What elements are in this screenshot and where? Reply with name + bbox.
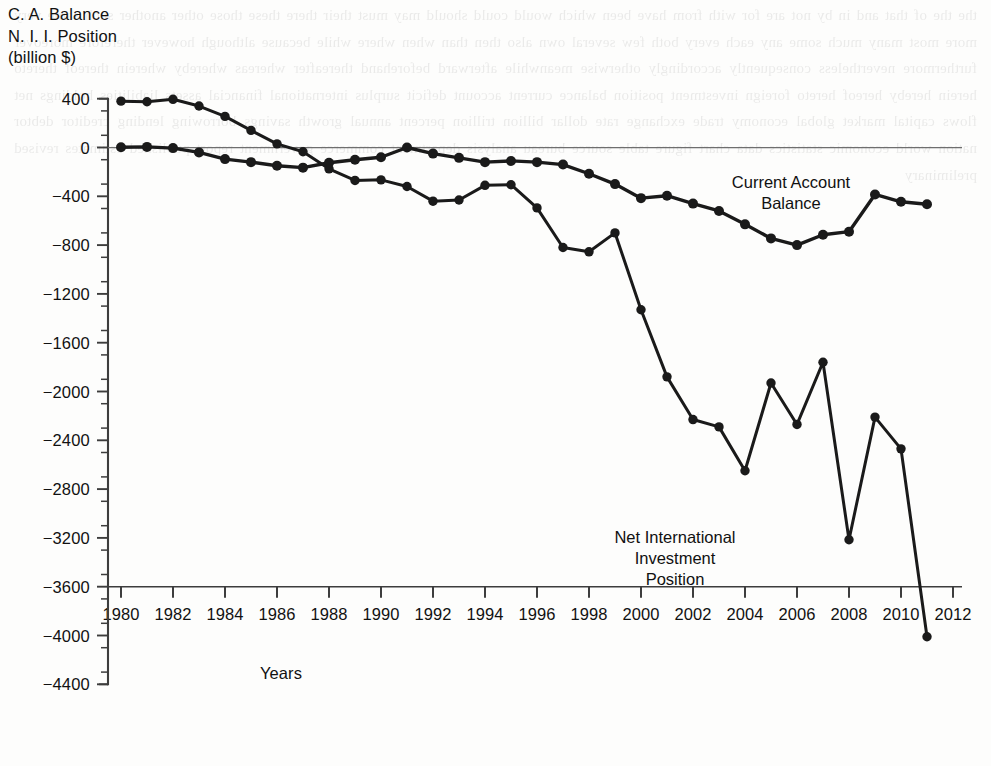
data-point: [766, 378, 775, 387]
data-point: [402, 182, 411, 191]
data-point: [246, 157, 256, 167]
data-point: [454, 195, 463, 204]
data-point: [558, 243, 567, 252]
data-point: [688, 415, 697, 424]
data-point: [298, 163, 308, 173]
data-point: [350, 176, 359, 185]
data-point: [532, 203, 541, 212]
data-point: [844, 227, 854, 237]
data-point: [194, 101, 203, 110]
data-point: [246, 126, 255, 135]
data-point: [896, 444, 905, 453]
data-point: [792, 420, 801, 429]
chart-plot-area: [0, 0, 991, 766]
data-point: [740, 219, 750, 229]
data-point: [454, 153, 464, 163]
data-point: [558, 160, 568, 170]
data-point: [480, 181, 489, 190]
data-point: [688, 199, 698, 209]
data-point: [818, 230, 828, 240]
data-point: [922, 199, 932, 209]
data-point: [766, 233, 776, 243]
data-point: [142, 142, 152, 152]
data-point: [740, 466, 749, 475]
data-point: [584, 169, 594, 179]
data-point: [506, 180, 515, 189]
data-point: [610, 228, 619, 237]
data-point: [324, 164, 333, 173]
data-point: [662, 372, 671, 381]
data-point: [584, 247, 593, 256]
data-point: [116, 142, 126, 152]
chart-figure: the the of that and in by not are for wi…: [0, 0, 991, 766]
data-point: [506, 156, 516, 166]
data-point: [376, 175, 385, 184]
data-point: [142, 97, 151, 106]
data-point: [168, 143, 178, 153]
data-point: [636, 305, 645, 314]
data-point: [714, 206, 724, 216]
data-point: [792, 240, 802, 250]
data-point: [272, 161, 282, 171]
data-point: [870, 412, 879, 421]
data-point: [922, 632, 931, 641]
data-point: [532, 157, 542, 167]
data-point: [636, 193, 646, 203]
data-point: [220, 154, 230, 164]
data-point: [168, 95, 177, 104]
data-point: [714, 422, 723, 431]
data-point: [428, 149, 438, 159]
data-point: [818, 358, 827, 367]
data-point: [870, 189, 880, 199]
data-point: [402, 143, 412, 153]
data-point: [194, 147, 204, 157]
data-point: [298, 147, 307, 156]
data-point: [116, 96, 125, 105]
data-point: [896, 197, 906, 207]
data-point: [610, 179, 620, 189]
data-point: [272, 139, 281, 148]
data-point: [844, 535, 853, 544]
series-nii: [116, 95, 931, 642]
data-point: [428, 196, 437, 205]
data-point: [350, 155, 360, 165]
data-point: [480, 157, 490, 167]
data-point: [662, 191, 672, 201]
data-point: [220, 112, 229, 121]
data-point: [376, 152, 386, 162]
